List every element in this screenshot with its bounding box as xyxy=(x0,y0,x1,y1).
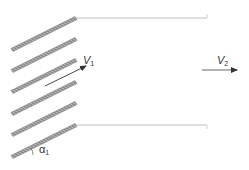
inlet-velocity-arrow xyxy=(45,66,86,86)
channel-walls xyxy=(77,14,207,129)
inlet-velocity-label: V1 xyxy=(83,55,94,67)
outlet-velocity-subscript: 2 xyxy=(224,60,228,67)
angle-arc-icon xyxy=(31,148,33,155)
cascade-diagram xyxy=(0,0,249,170)
blade-angle-label: α1 xyxy=(39,144,49,156)
blade-row xyxy=(11,17,77,159)
blade xyxy=(11,38,77,73)
blade xyxy=(11,17,77,52)
outlet-velocity-label: V2 xyxy=(217,55,228,67)
inlet-velocity-subscript: 1 xyxy=(90,60,94,67)
blade-angle-subscript: 1 xyxy=(45,149,49,156)
